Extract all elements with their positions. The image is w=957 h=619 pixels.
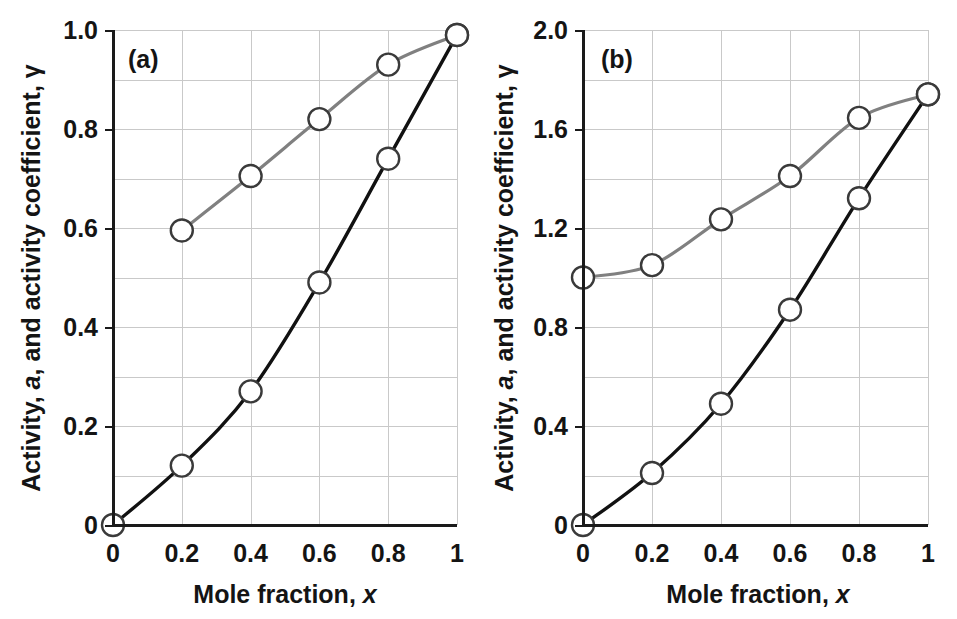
data-point-marker	[446, 24, 468, 46]
y-axis-title-a: Activity, a, and activity coefficient, γ	[17, 64, 45, 492]
ticklabels-b: 00.20.40.60.8100.40.81.21.62.0	[533, 16, 935, 567]
x-tick-label: 0	[106, 539, 120, 567]
series-group-b	[572, 83, 939, 536]
data-point-marker	[917, 83, 939, 105]
y-axis-title-symbol-a-a: a	[17, 375, 45, 389]
y-tick-label: 1.0	[63, 16, 98, 44]
x-tick-label: 0.6	[302, 539, 337, 567]
x-tick-label: 0.6	[773, 539, 808, 567]
y-tick-label: 0.8	[63, 115, 98, 143]
y-tick-label: 0.6	[63, 214, 98, 242]
y-axis-title-symbol-a-b: a	[490, 375, 518, 389]
x-axis-title-a: Mole fraction, x	[193, 580, 377, 608]
gridlines-a	[113, 30, 458, 525]
data-point-marker	[848, 107, 870, 129]
y-tick-label: 1.6	[533, 115, 568, 143]
plot-svg-a: 00.20.40.60.8100.20.40.60.81.0 (a) Mole …	[0, 0, 478, 619]
data-point-marker	[377, 148, 399, 170]
y-axis-title-b: Activity, a, and activity coefficient, γ	[490, 64, 518, 492]
data-point-marker	[641, 462, 663, 484]
y-tick-label: 0.4	[63, 313, 98, 341]
x-tick-label: 0.8	[842, 539, 877, 567]
x-tick-label: 0.4	[233, 539, 268, 567]
axes-b	[575, 30, 929, 526]
x-axis-title-main-b: Mole fraction,	[666, 580, 829, 608]
data-point-marker	[308, 271, 330, 293]
y-axis-title-prefix-a: Activity,	[17, 396, 45, 491]
x-tick-label: 0.2	[164, 539, 199, 567]
x-tick-label: 1	[921, 539, 935, 567]
x-tick-label: 0	[576, 539, 590, 567]
data-point-marker	[779, 165, 801, 187]
x-tick-label: 0.8	[371, 539, 406, 567]
x-tick-label: 0.4	[704, 539, 739, 567]
x-axis-title-main-a: Mole fraction,	[193, 580, 356, 608]
x-axis-title-symbol-a: x	[361, 580, 378, 608]
x-axis-title-b: Mole fraction, x	[666, 580, 850, 608]
series-line-activity	[113, 35, 457, 525]
y-axis-title-middle-b: , and activity coefficient,	[490, 85, 518, 375]
data-point-marker	[171, 219, 193, 241]
ticklabels-a: 00.20.40.60.8100.20.40.60.81.0	[63, 16, 464, 567]
x-tick-label: 1	[450, 539, 464, 567]
data-point-marker	[779, 299, 801, 321]
data-point-marker	[848, 187, 870, 209]
y-axis-title-prefix-b: Activity,	[490, 396, 518, 491]
figure-root: 00.20.40.60.8100.20.40.60.81.0 (a) Mole …	[0, 0, 957, 619]
x-axis-title-symbol-b: x	[834, 580, 851, 608]
y-tick-label: 1.2	[533, 214, 568, 242]
data-point-marker	[641, 254, 663, 276]
y-axis-title-gamma-a: γ	[17, 64, 45, 78]
series-line-activity-coefficient	[583, 94, 928, 277]
x-tick-label: 0.2	[635, 539, 670, 567]
y-tick-label: 0	[84, 511, 98, 539]
data-point-marker	[240, 380, 262, 402]
chart-panel-b: 00.20.40.60.8100.40.81.21.62.0 (b) Mole …	[479, 0, 957, 619]
y-tick-label: 0.8	[533, 313, 568, 341]
data-point-marker	[710, 393, 732, 415]
plot-svg-b: 00.20.40.60.8100.40.81.21.62.0 (b) Mole …	[479, 0, 957, 619]
data-point-marker	[377, 54, 399, 76]
data-point-marker	[171, 455, 193, 477]
panel-label-b: (b)	[601, 45, 633, 73]
series-line-activity	[583, 94, 928, 525]
y-tick-label: 0.2	[63, 412, 98, 440]
chart-panel-a: 00.20.40.60.8100.20.40.60.81.0 (a) Mole …	[0, 0, 478, 619]
series-group-a	[102, 24, 468, 536]
data-point-marker	[308, 108, 330, 130]
axes-a	[105, 30, 458, 526]
y-axis-title-gamma-b: γ	[490, 64, 518, 78]
data-point-marker	[710, 208, 732, 230]
y-tick-label: 2.0	[533, 16, 568, 44]
y-tick-label: 0.4	[533, 412, 568, 440]
y-axis-title-middle-a: , and activity coefficient,	[17, 85, 45, 375]
data-point-marker	[240, 165, 262, 187]
panel-label-a: (a)	[128, 45, 159, 73]
y-tick-label: 0	[554, 511, 568, 539]
gridlines-b	[583, 30, 929, 525]
